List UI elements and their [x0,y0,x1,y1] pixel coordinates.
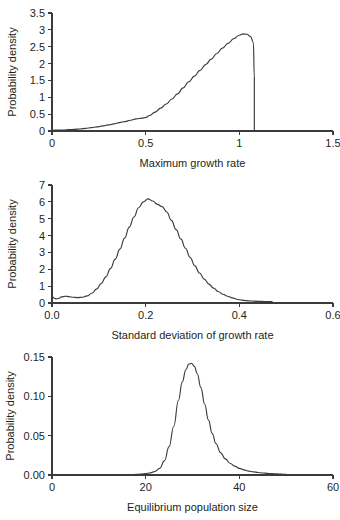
x-axis-title-1: Standard deviation of growth rate [111,329,273,341]
y-tick-label: 0 [39,297,45,309]
tick-labels-1: 012345670.00.20.40.6 [39,179,340,321]
axis-spine [52,13,333,131]
x-tick-label: 60 [327,481,339,493]
x-tick-label: 0.0 [44,309,59,321]
chart-panel-standard-deviation-of-growth-rate: 012345670.00.20.40.6 Standard deviation … [0,172,340,345]
y-tick-label: 1 [39,280,45,292]
chart-panel-equilibrium-population-size: 0.000.050.100.150204060 Equilibrium popu… [0,344,340,517]
density-curve-1 [52,199,272,302]
axes-1 [52,185,333,303]
x-tick-label: 0 [49,481,55,493]
x-tick-label: 1 [236,137,242,149]
tick-labels-0: 00.511.522.533.500.511.5 [30,7,340,149]
y-tick-label: 0.05 [24,430,45,442]
chart-svg-0: 00.511.522.533.500.511.5 Maximum growth … [0,0,340,173]
tick-labels-2: 0.000.050.100.150204060 [24,351,340,493]
x-axis-title-0: Maximum growth rate [140,157,246,169]
y-tick-label: 1 [39,91,45,103]
x-tick-label: 0.4 [232,309,247,321]
density-curve-0 [52,34,254,131]
y-axis-title-0: Probability density [6,27,18,117]
chart-svg-1: 012345670.00.20.40.6 Standard deviation … [0,172,340,345]
y-tick-label: 3 [39,246,45,258]
axes-0 [52,13,333,131]
axis-spine [52,185,333,303]
x-tick-label: 0.5 [138,137,153,149]
x-tick-label: 20 [140,481,152,493]
y-tick-label: 2 [39,58,45,70]
y-tick-label: 6 [39,196,45,208]
y-tick-label: 0.00 [24,469,45,481]
y-tick-label: 2.5 [30,41,45,53]
x-tick-label: 1.5 [325,137,340,149]
chart-panel-maximum-growth-rate: 00.511.522.533.500.511.5 Maximum growth … [0,0,340,173]
y-tick-label: 4 [39,230,45,242]
ticks-2 [48,357,333,479]
y-axis-title-2: Probability density [4,371,16,461]
axes-2 [52,357,333,475]
figure-panel-stack: 00.511.522.533.500.511.5 Maximum growth … [0,0,340,520]
x-axis-title-2: Equilibrium population size [127,501,258,513]
x-tick-label: 0.2 [138,309,153,321]
ticks-1 [48,185,333,307]
y-tick-label: 0.15 [24,351,45,363]
y-tick-label: 2 [39,263,45,275]
density-curve-2 [132,363,287,474]
y-tick-label: 3 [39,24,45,36]
ticks-0 [48,13,333,135]
y-tick-label: 0.5 [30,108,45,120]
x-tick-label: 0.6 [325,309,340,321]
chart-svg-2: 0.000.050.100.150204060 Equilibrium popu… [0,344,340,517]
y-tick-label: 7 [39,179,45,191]
axis-spine [52,357,333,475]
y-tick-label: 5 [39,213,45,225]
x-tick-label: 40 [233,481,245,493]
y-axis-title-1: Probability density [6,199,18,289]
y-tick-label: 3.5 [30,7,45,19]
y-tick-label: 1.5 [30,74,45,86]
y-tick-label: 0 [39,125,45,137]
x-tick-label: 0 [49,137,55,149]
y-tick-label: 0.10 [24,390,45,402]
